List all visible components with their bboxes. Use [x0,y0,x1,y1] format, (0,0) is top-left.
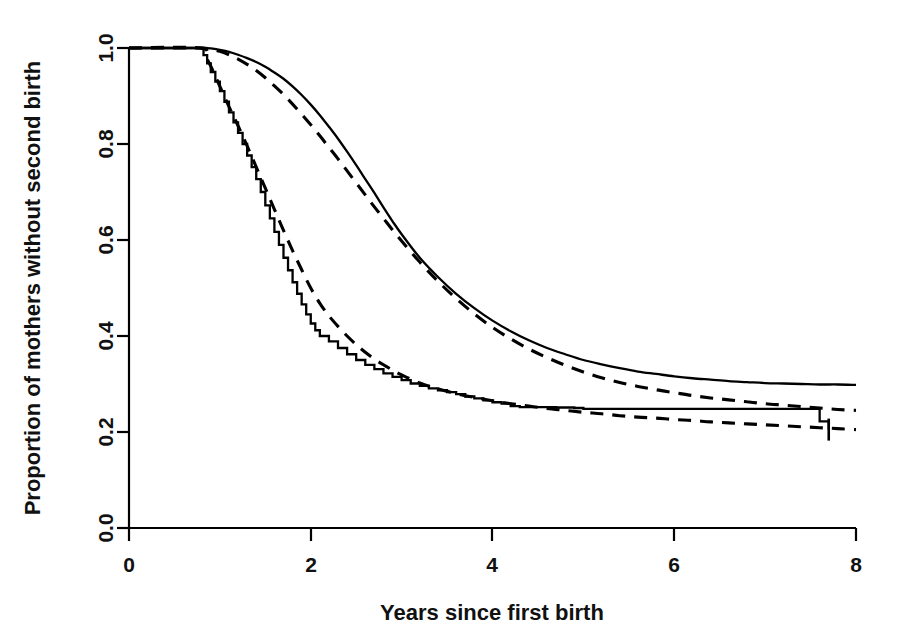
series-path-1 [129,48,856,410]
x-tick-label-4: 8 [850,553,862,576]
y-tick-label-0: 0.0 [94,513,117,542]
x-axis-title: Years since first birth [380,600,604,625]
survival-chart-figure: 0.0 0.2 0.4 0.6 0.8 1.0 0 2 4 6 8 Years … [0,0,897,641]
y-tick-label-4: 0.8 [94,129,117,159]
series-path-2 [129,48,829,430]
x-tick-label-1: 2 [305,553,317,576]
y-axis-title: Proportion of mothers without second bir… [20,61,45,516]
y-tick-label-3: 0.6 [94,225,117,254]
y-tick-group [117,48,129,528]
plot-canvas: 0.0 0.2 0.4 0.6 0.8 1.0 0 2 4 6 8 Years … [0,0,897,641]
x-tick-label-0: 0 [123,553,135,576]
y-tick-label-5: 1.0 [94,33,117,62]
x-tick-label-2: 4 [486,553,498,576]
series-path-0 [129,48,856,385]
y-tick-label-1: 0.2 [94,417,117,446]
x-tick-group [129,528,856,541]
x-tick-labels: 0 2 4 6 8 [123,553,862,576]
curve-group [129,47,856,440]
y-tick-label-2: 0.4 [94,321,117,351]
series-path-3 [129,47,856,429]
x-tick-label-3: 6 [668,553,680,576]
y-tick-labels: 0.0 0.2 0.4 0.6 0.8 1.0 [94,33,117,542]
